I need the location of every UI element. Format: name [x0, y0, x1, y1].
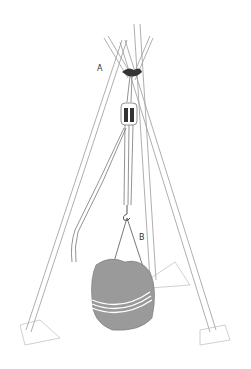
label-b: B: [139, 233, 145, 242]
label-a: A: [97, 64, 102, 73]
top-lashing: [122, 68, 142, 76]
pulley-block: [121, 103, 137, 125]
tripod-drawing: [0, 0, 251, 369]
tripod-illustration: A B: [0, 0, 251, 369]
